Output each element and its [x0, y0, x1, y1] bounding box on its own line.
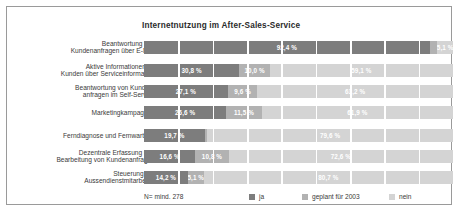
- bar-segment-nein: 61,9 %: [262, 106, 453, 119]
- chart-row: Steuerung der Aussendienstmitarbeiter14,…: [7, 169, 462, 186]
- stacked-bar: 26,6 %11,5 %61,9 %: [144, 106, 453, 119]
- bar-value-label: 61,9 %: [347, 109, 367, 116]
- bar-value-label: 27,1 %: [176, 88, 196, 95]
- stacked-bar: 27,1 %9,6 %63,2 %: [144, 85, 453, 98]
- bar-value-label: 92,4 %: [277, 44, 297, 51]
- legend-label-ja: ja: [259, 193, 264, 200]
- bar-value-label: 10,8 %: [202, 153, 222, 160]
- legend-label-geplant: geplant für 2003: [312, 193, 360, 200]
- bar-value-label: 72,6 %: [331, 153, 351, 160]
- legend-swatch-nein: [389, 194, 395, 200]
- bar-segment-geplant: 10,8 %: [195, 150, 228, 163]
- chart-row: Marketingkampagnen26,6 %11,5 %61,9 %: [7, 104, 462, 121]
- stacked-bar: 30,8 %10,0 %59,1 %: [144, 64, 453, 77]
- stacked-bar: 16,6 %10,8 %72,6 %: [144, 150, 453, 163]
- bar-value-label: 63,2 %: [345, 88, 365, 95]
- bar-value-label: 5,1 %: [437, 44, 453, 51]
- stacked-bar: 19,7 %79,6 %: [144, 129, 453, 142]
- category-label: Dezentrale Erfassung und Bearbeitung von…: [27, 149, 155, 164]
- bar-segment-ja: 92,4 %: [144, 41, 430, 54]
- bar-segment-ja: 16,6 %: [144, 150, 195, 163]
- bar-value-label: 10,0 %: [245, 67, 265, 74]
- bar-value-label: 30,8 %: [181, 67, 201, 74]
- bar-segment-nein: 80,7 %: [204, 171, 453, 184]
- chart-row: Ferndiagnose und Fernwartung19,7 %79,6 %: [7, 127, 462, 144]
- bar-value-label: 5,1 %: [188, 174, 204, 181]
- bar-segment-ja: 26,6 %: [144, 106, 226, 119]
- bar-value-label: 19,7 %: [164, 132, 184, 139]
- bar-segment-ja: 30,8 %: [144, 64, 239, 77]
- chart-frame: Internetnutzung im After-Sales-Service B…: [6, 6, 452, 205]
- bar-value-label: 14,2 %: [156, 174, 176, 181]
- category-label: Marketingkampagnen: [27, 109, 155, 117]
- chart-row: Beantwortung von Kundenanfragen über E-M…: [7, 39, 462, 56]
- chart-row: Dezentrale Erfassung und Bearbeitung von…: [7, 148, 462, 165]
- category-label: Ferndiagnose und Fernwartung: [27, 132, 155, 140]
- chart-footer: N= mind. 278 ja geplant für 2003 nein: [7, 193, 462, 207]
- bar-segment-geplant: 9,6 %: [228, 85, 258, 98]
- bar-segment-nein: 72,6 %: [229, 150, 453, 163]
- bar-value-label: 11,5 %: [234, 109, 254, 116]
- plot-area: Beantwortung von Kundenanfragen über E-M…: [7, 39, 462, 187]
- legend-swatch-ja: [249, 194, 255, 200]
- stacked-bar: 92,4 %5,1 %: [144, 41, 453, 54]
- chart-row: Beantwortung von Kunden- anfragen im Sel…: [7, 83, 462, 100]
- bar-value-label: 26,6 %: [175, 109, 195, 116]
- bar-segment-geplant: 5,1 %: [188, 171, 204, 184]
- category-label: Aktive Informationen an Kunden über Serv…: [27, 63, 155, 78]
- bar-segment-ja: 14,2 %: [144, 171, 188, 184]
- bar-segment-ja: 19,7 %: [144, 129, 205, 142]
- bar-segment-nein: 79,6 %: [207, 129, 453, 142]
- bar-segment-nein: 5,1 %: [437, 41, 453, 54]
- bar-segment-geplant: 11,5 %: [226, 106, 262, 119]
- bar-segment-nein: 63,2 %: [257, 85, 452, 98]
- legend-swatch-geplant: [302, 194, 308, 200]
- bar-value-label: 80,7 %: [318, 174, 338, 181]
- bar-segment-geplant: 10,0 %: [239, 64, 270, 77]
- bar-segment-geplant: [430, 41, 438, 54]
- category-label: Beantwortung von Kundenanfragen über E-M…: [27, 40, 155, 55]
- category-label: Steuerung der Aussendienstmitarbeiter: [27, 170, 155, 185]
- bar-segment-ja: 27,1 %: [144, 85, 228, 98]
- category-label: Beantwortung von Kunden- anfragen im Sel…: [27, 84, 155, 99]
- sample-size-note: N= mind. 278: [144, 193, 183, 200]
- legend-item-ja: ja: [249, 193, 264, 200]
- chart-title: Internetnutzung im After-Sales-Service: [142, 21, 300, 30]
- bar-value-label: 79,6 %: [320, 132, 340, 139]
- legend-item-nein: nein: [389, 193, 411, 200]
- chart-row: Aktive Informationen an Kunden über Serv…: [7, 62, 462, 79]
- bar-value-label: 16,6 %: [160, 153, 180, 160]
- bar-value-label: 59,1 %: [351, 67, 371, 74]
- legend-label-nein: nein: [399, 193, 411, 200]
- bar-segment-nein: 59,1 %: [270, 64, 453, 77]
- bar-value-label: 9,6 %: [234, 88, 251, 95]
- legend-item-geplant: geplant für 2003: [302, 193, 360, 200]
- stacked-bar: 14,2 %5,1 %80,7 %: [144, 171, 453, 184]
